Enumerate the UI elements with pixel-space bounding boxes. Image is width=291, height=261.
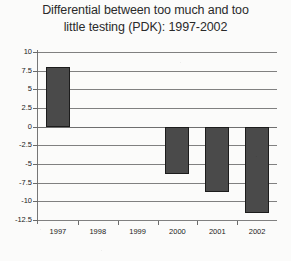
x-tick-label-1997: 1997 [38,227,78,236]
y-tick-mark [33,164,38,165]
gridline-neg2-5 [38,145,277,146]
y-tick-mark [33,71,38,72]
x-tick-mark [78,221,79,225]
bar-2000 [165,127,189,174]
y-tick-label: 5 [2,85,32,93]
x-tick-mark [118,221,119,225]
y-tick-label: -5 [2,160,32,168]
bar-1997 [46,67,70,127]
y-tick-label: 10 [2,48,32,56]
y-tick-label: -10 [2,197,32,205]
x-tick-mark [158,221,159,225]
x-tick-label-2000: 2000 [158,227,198,236]
gridline-10 [38,52,277,53]
bar-2001 [205,127,229,193]
y-tick-mark [33,183,38,184]
gridline-7neg5 [38,71,277,72]
gridline-2neg5 [38,108,277,109]
x-tick-label-2001: 2001 [197,227,237,236]
y-axis-labels: 107.552.50-2.5-5-7.5-10-12.5 [0,0,32,261]
chart-figure: Differential between too much and too li… [0,0,291,261]
x-tick-mark [237,221,238,225]
y-tick-mark [33,89,38,90]
y-tick-mark [33,52,38,53]
bar-2002 [245,127,269,213]
gridline-0 [38,127,277,128]
x-tick-mark [197,221,198,225]
x-tick-label-1998: 1998 [78,227,118,236]
chart-title-line-1: Differential between too much and too [8,2,283,19]
gridline-5 [38,89,277,90]
y-tick-mark [33,127,38,128]
y-tick-label: 2.5 [2,104,32,112]
x-tick-label-1999: 1999 [118,227,158,236]
y-tick-mark [33,220,38,221]
y-tick-label: 7.5 [2,67,32,75]
y-tick-label: -2.5 [2,141,32,149]
y-tick-mark [33,201,38,202]
y-tick-label: -7.5 [2,179,32,187]
y-tick-mark [33,145,38,146]
chart-title: Differential between too much and too li… [8,2,283,36]
y-tick-mark [33,108,38,109]
y-tick-label: 0 [2,123,32,131]
gridline-neg10 [38,201,277,202]
plot-area [38,52,277,220]
chart-title-line-2: little testing (PDK): 1997-2002 [8,19,283,36]
y-tick-label: -12.5 [2,216,32,224]
x-tick-label-2002: 2002 [237,227,277,236]
gridline-neg7-5 [38,183,277,184]
gridline-neg5 [38,164,277,165]
